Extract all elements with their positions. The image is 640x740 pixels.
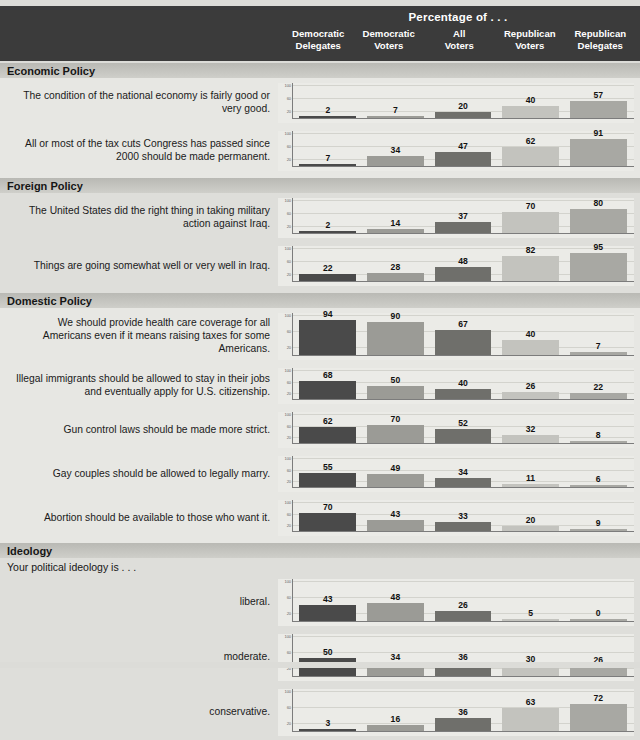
bar-group: 554934116: [294, 458, 632, 487]
bar-value-label: 14: [362, 218, 430, 228]
bar: [299, 513, 356, 531]
bar-cell: 63: [497, 691, 565, 731]
bar: [570, 441, 627, 443]
bar-value-label: 34: [362, 145, 430, 155]
y-axis-line: [292, 500, 293, 532]
y-tick-label: 60: [287, 259, 291, 264]
bar: [502, 147, 559, 166]
bar: [299, 164, 356, 166]
y-axis-ticks: 1006020: [278, 131, 292, 171]
bar: [570, 352, 627, 355]
y-tick-label: 20: [287, 224, 291, 229]
bar-value-label: 43: [362, 509, 430, 519]
column-header-4: RepublicanVoters: [495, 28, 566, 51]
bar-value-label: 26: [429, 600, 497, 610]
y-axis-ticks: 1006020: [278, 634, 292, 681]
section-title: Domestic Policy: [7, 295, 92, 307]
bar: [502, 340, 559, 355]
column-header-line1: Democratic: [354, 28, 425, 40]
question-row: Illegal immigrants should be allowed to …: [0, 365, 640, 409]
bar-cell: 9: [564, 502, 632, 531]
x-axis-line: [292, 443, 634, 444]
bar-cell: 30: [497, 636, 565, 676]
section-title: Economic Policy: [7, 65, 95, 77]
bar-cell: 32: [497, 414, 565, 443]
y-tick-label: 60: [287, 96, 291, 101]
bar-value-label: 70: [294, 502, 362, 512]
question-row: All or most of the tax cuts Congress has…: [0, 128, 640, 176]
y-axis-line: [292, 246, 293, 282]
bar-value-label: 63: [497, 697, 565, 707]
bar-cell: 40: [497, 85, 565, 118]
question-row: Things are going somewhat well or very w…: [0, 243, 640, 291]
y-tick-label: 60: [287, 650, 291, 655]
bar-chart-panel: 100602027204057: [278, 83, 634, 123]
y-tick-label: 60: [287, 595, 291, 600]
bar-cell: 34: [362, 133, 430, 166]
bar-cell: 62: [294, 414, 362, 443]
question-label: Illegal immigrants should be allowed to …: [8, 372, 270, 398]
bar-value-label: 2: [294, 220, 362, 230]
column-header-line1: All: [424, 28, 495, 40]
bar-cell: 26: [429, 581, 497, 621]
bar-cell: 20: [497, 502, 565, 531]
column-header-line1: Republican: [565, 28, 636, 40]
bar-value-label: 33: [429, 511, 497, 521]
bar: [502, 526, 559, 531]
y-axis-line: [292, 456, 293, 488]
bar-cell: 14: [362, 200, 430, 233]
bar-cell: 0: [564, 581, 632, 621]
bar: [367, 725, 424, 731]
bar: [502, 435, 559, 443]
question-label: Gay couples should be allowed to legally…: [8, 467, 270, 480]
bar-cell: 43: [294, 581, 362, 621]
y-tick-label: 60: [287, 467, 291, 472]
bar-value-label: 43: [294, 594, 362, 604]
bar: [299, 427, 356, 443]
bar-chart-panel: 10060205034363026: [278, 634, 634, 681]
bar: [435, 478, 492, 487]
bar-cell: 7: [362, 85, 430, 118]
bar-cell: 70: [497, 200, 565, 233]
y-tick-label: 20: [287, 721, 291, 726]
y-axis-ticks: 1006020: [278, 456, 292, 492]
y-tick-label: 60: [287, 379, 291, 384]
question-label: Gun control laws should be made more str…: [8, 423, 270, 436]
bar-value-label: 47: [429, 141, 497, 151]
bar-value-label: 20: [497, 515, 565, 525]
question-row: moderate.10060205034363026: [0, 631, 640, 686]
bar: [367, 425, 424, 443]
x-axis-line: [292, 281, 634, 282]
bar-value-label: 82: [497, 245, 565, 255]
bar: [570, 393, 627, 399]
question-row: Gun control laws should be made more str…: [0, 409, 640, 453]
x-axis-line: [292, 233, 634, 234]
bar: [502, 392, 559, 399]
bar-value-label: 36: [429, 652, 497, 662]
bar-cell: 40: [429, 370, 497, 399]
column-header-1: DemocraticDelegates: [283, 28, 354, 51]
y-tick-label: 20: [287, 611, 291, 616]
bar-value-label: 2: [294, 105, 362, 115]
bar-value-label: 70: [362, 414, 430, 424]
bar: [435, 611, 492, 621]
bar-cell: 26: [564, 636, 632, 676]
bar-cell: 7: [294, 133, 362, 166]
question-row: Abortion should be available to those wh…: [0, 497, 640, 541]
bar: [502, 708, 559, 731]
bar: [502, 256, 559, 281]
bar-value-label: 68: [294, 370, 362, 380]
bar-value-label: 49: [362, 463, 430, 473]
question-label: conservative.: [8, 705, 270, 718]
x-axis-line: [292, 731, 634, 732]
bar-chart-panel: 10060206850402622: [278, 368, 634, 404]
bar: [299, 116, 356, 118]
section-band: [0, 178, 640, 193]
column-header-3: AllVoters: [424, 28, 495, 51]
section-band: [0, 63, 640, 78]
question-row: The United States did the right thing in…: [0, 195, 640, 243]
bar-cell: 67: [429, 315, 497, 355]
bar-group: 949067407: [294, 315, 632, 355]
bar: [299, 729, 356, 731]
question-row: The condition of the national economy is…: [0, 80, 640, 128]
